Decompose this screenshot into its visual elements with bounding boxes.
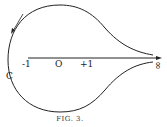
figure-caption: FIG. 3.	[0, 115, 140, 123]
label-contour-c: C	[6, 72, 13, 81]
axis-arrowhead-icon	[156, 56, 162, 60]
label-infinity: ∞	[153, 61, 164, 69]
label-minus-one: -1	[22, 60, 31, 69]
label-plus-one: +1	[80, 60, 93, 69]
label-origin: O	[55, 60, 62, 69]
direction-arrow-icon	[13, 14, 23, 31]
